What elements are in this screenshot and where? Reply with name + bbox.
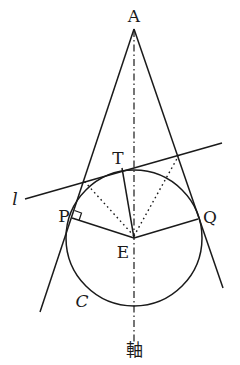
cone-left-side: [40, 29, 134, 312]
segment-eq: [134, 219, 198, 238]
label-e: E: [117, 242, 129, 262]
cone-right-side: [134, 29, 223, 288]
label-c: C: [75, 291, 88, 311]
label-a: A: [127, 6, 141, 26]
label-t: T: [112, 148, 124, 168]
cone-sphere-diagram: A T P Q E C l 軸: [0, 0, 240, 365]
label-p: P: [58, 206, 69, 226]
label-l: l: [12, 189, 17, 209]
dotted-left: [84, 181, 134, 236]
label-axis: 軸: [126, 340, 143, 360]
label-q: Q: [203, 207, 217, 227]
segment-et: [122, 168, 134, 238]
segment-ep: [72, 218, 134, 238]
dotted-right: [134, 155, 179, 236]
